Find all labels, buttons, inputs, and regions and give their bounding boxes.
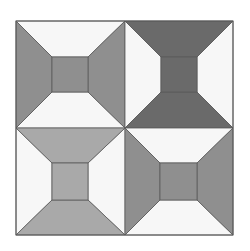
block-bottom-right [125, 128, 233, 235]
quilt-pattern [0, 0, 250, 251]
block-bottom-left [16, 128, 125, 235]
block-top-left [16, 21, 125, 128]
block-top-right [125, 21, 233, 128]
